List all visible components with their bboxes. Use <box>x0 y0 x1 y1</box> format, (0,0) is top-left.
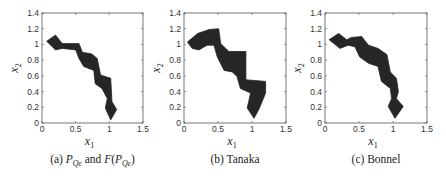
subplot-a: 00.511.500.20.40.60.811.21.4x1x2 <box>7 8 149 150</box>
x-tick-label: 1 <box>391 124 396 134</box>
x-tick-label: 0.5 <box>212 124 224 134</box>
x-axis-label: x1 <box>226 134 236 150</box>
y-tick-label: 0.2 <box>27 102 39 112</box>
caption-b: (b) Tanaka <box>184 153 286 165</box>
caption-a: (a) PQε and F(PQε) <box>12 153 173 168</box>
y-tick-label: 0.6 <box>310 71 322 81</box>
subplot-c: 00.511.500.20.40.60.811.21.4x1x2 <box>290 8 433 150</box>
y-tick-label: 0.4 <box>27 87 39 97</box>
y-tick-label: 0 <box>317 118 322 128</box>
y-axis-label: x2 <box>290 63 306 73</box>
y-tick-label: 1.2 <box>310 24 322 34</box>
x-tick-label: 1.5 <box>280 124 292 134</box>
y-tick-label: 1 <box>176 39 181 49</box>
y-tick-label: 1.2 <box>27 24 39 34</box>
y-tick-label: 1 <box>34 39 39 49</box>
y-tick-label: 0.4 <box>310 87 322 97</box>
y-tick-label: 0.4 <box>169 87 181 97</box>
y-tick-label: 1 <box>317 39 322 49</box>
y-tick-label: 0.8 <box>169 55 181 65</box>
y-tick-label: 0.6 <box>27 71 39 81</box>
feasible-region <box>47 35 117 120</box>
y-tick-label: 0.6 <box>169 71 181 81</box>
axes-box <box>325 13 427 123</box>
x-tick-label: 1 <box>107 124 112 134</box>
y-tick-label: 1.4 <box>27 8 39 18</box>
x-tick-label: 1.5 <box>421 124 433 134</box>
x-tick-label: 0.5 <box>353 124 365 134</box>
y-tick-label: 0 <box>34 118 39 128</box>
feasible-region <box>329 33 403 118</box>
y-tick-label: 0.8 <box>27 55 39 65</box>
y-tick-label: 0.2 <box>169 102 181 112</box>
subplots-canvas: 00.511.500.20.40.60.811.21.4x1x200.511.5… <box>0 0 446 178</box>
x-axis-label: x1 <box>367 134 377 150</box>
y-tick-label: 0 <box>176 118 181 128</box>
x-tick-label: 1.5 <box>137 124 149 134</box>
x-tick-label: 0.5 <box>70 124 82 134</box>
y-axis-label: x2 <box>149 63 165 73</box>
x-axis-label: x1 <box>84 134 94 150</box>
x-tick-label: 1 <box>250 124 255 134</box>
y-tick-label: 1.2 <box>169 24 181 34</box>
y-tick-label: 1.4 <box>310 8 322 18</box>
y-tick-label: 0.2 <box>310 102 322 112</box>
y-axis-label: x2 <box>7 63 23 73</box>
feasible-region <box>187 29 265 119</box>
x-tick-label: 0 <box>182 124 187 134</box>
subplot-b: 00.511.500.20.40.60.811.21.4x1x2 <box>149 8 292 150</box>
x-tick-label: 0 <box>323 124 328 134</box>
x-tick-label: 0 <box>40 124 45 134</box>
y-tick-label: 1.4 <box>169 8 181 18</box>
caption-c: (c) Bonnel <box>325 153 427 165</box>
y-tick-label: 0.8 <box>310 55 322 65</box>
